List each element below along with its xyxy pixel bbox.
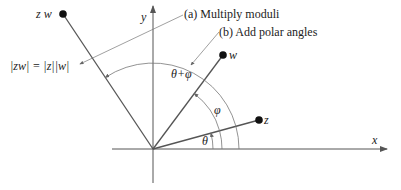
pointer-b	[191, 32, 219, 65]
point-zw	[59, 10, 67, 18]
annotation-modulus-formula: |zw| = |z||w|	[10, 59, 69, 73]
annotation-add-polar-angles: (b) Add polar angles	[219, 25, 318, 39]
vector-zw	[63, 14, 153, 149]
label-zw: z w	[35, 7, 52, 21]
label-z: z	[263, 113, 269, 127]
label-phi: φ	[214, 103, 221, 117]
pointer-a	[80, 15, 183, 64]
y-axis-label: y	[140, 10, 147, 24]
annotation-multiply-moduli: (a) Multiply moduli	[184, 7, 280, 21]
phi-arc-outer	[220, 131, 222, 149]
point-z	[255, 116, 263, 124]
theta-arc	[211, 133, 213, 149]
complex-multiplication-diagram: y x z w z w θ φ θ+φ (a) Multiply moduli …	[0, 0, 401, 190]
point-w	[219, 51, 227, 59]
label-theta: θ	[202, 134, 208, 148]
x-axis-label: x	[371, 133, 378, 147]
label-w: w	[229, 48, 237, 62]
label-theta-plus-phi: θ+φ	[171, 67, 192, 81]
